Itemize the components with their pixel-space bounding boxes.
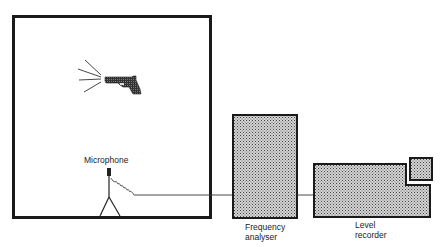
level-recorder-label-1: Level: [355, 220, 375, 230]
frequency-analyser-box: [233, 115, 297, 218]
level-recorder-module: [410, 158, 432, 180]
microphone-label: Microphone: [84, 155, 128, 165]
level-recorder-label-2: recorder: [355, 230, 387, 240]
microphone-icon: [100, 168, 120, 216]
room-enclosure: [14, 17, 211, 218]
coiled-cable: [111, 178, 134, 195]
sound-rays-icon: [78, 60, 101, 92]
pistol-icon: [105, 76, 141, 94]
frequency-analyser-label-2: analyser: [245, 232, 277, 242]
frequency-analyser-label-1: Frequency: [245, 222, 285, 232]
diagram-canvas: [0, 0, 442, 247]
